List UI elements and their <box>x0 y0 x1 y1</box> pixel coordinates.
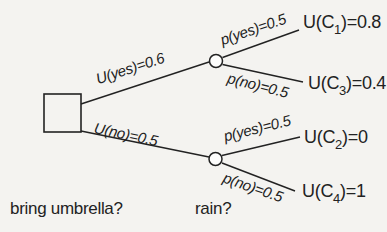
outcome-c4-subscript: 4 <box>333 191 340 206</box>
chance-node-top <box>210 55 223 68</box>
decision-tree-diagram: U(yes)=0.6 U(no)=0.5 p(yes)=0.5 p(no)=0.… <box>0 0 387 232</box>
outcome-c3-pre: U(C <box>308 73 339 93</box>
outcome-c4-pre: U(C <box>302 181 333 201</box>
caption-chance-question: rain? <box>195 199 231 219</box>
outcome-c2-pre: U(C <box>304 127 335 147</box>
outcome-c2-subscript: 2 <box>335 137 342 152</box>
outcome-label-c3: U(C3)=0.4 <box>308 74 386 97</box>
outcome-label-c2: U(C2)=0 <box>304 128 368 151</box>
outcome-c1-subscript: 1 <box>334 22 341 37</box>
decision-node-square <box>44 94 81 132</box>
outcome-label-c1: U(C1)=0.8 <box>303 13 381 36</box>
caption-decision-question: bring umbrella? <box>10 199 123 219</box>
outcome-c1-value: )=0.8 <box>341 12 381 32</box>
outcome-label-c4: U(C4)=1 <box>302 182 366 205</box>
outcome-c1-pre: U(C <box>303 12 334 32</box>
outcome-c4-value: )=1 <box>340 181 366 201</box>
outcome-c3-value: )=0.4 <box>346 73 386 93</box>
chance-node-bottom <box>209 153 222 166</box>
outcome-c3-subscript: 3 <box>339 83 346 98</box>
outcome-c2-value: )=0 <box>342 127 368 147</box>
